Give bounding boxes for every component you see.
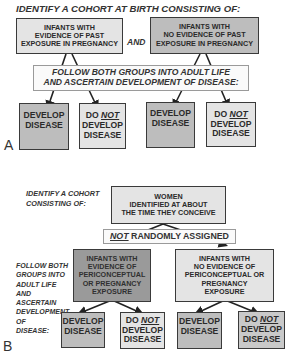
text-line: FOLLOW BOTH [16, 261, 69, 270]
panel-a-outcome-develop-1: DEVELOP DISEASE [19, 103, 69, 150]
panel-b-outcome-not-develop-1: DO NOT DEVELOP DISEASE [120, 312, 165, 349]
text-line: GROUPS INTO [16, 270, 69, 279]
text-line: NOT RANDOMLY ASSIGNED [110, 231, 229, 241]
text-line: DISEASE [25, 121, 63, 131]
not-emphasis: NOT [230, 109, 248, 119]
panel-b-outcome-not-develop-2: DO NOT DEVELOP DISEASE [238, 311, 285, 349]
text-line: DISEASE [64, 327, 102, 337]
panel-a-outcome-develop-2: DEVELOP DISEASE [146, 102, 195, 148]
text-line: DISEASE [152, 119, 190, 129]
panel-a-outcome-not-develop-2: DO NOT DEVELOP DISEASE [206, 102, 256, 147]
not-emphasis: NOT [101, 110, 119, 120]
panel-b-outcome-develop-2: DEVELOP DISEASE [177, 312, 222, 349]
panel-a-follow-instruction: FOLLOW BOTH GROUPS INTO ADULT LIFE AND A… [33, 65, 249, 91]
not-emphasis: NOT [141, 315, 159, 325]
not-emphasis: NOT [260, 314, 278, 324]
text-line: EXPOSURE IN PREGNANCY [21, 40, 118, 48]
panel-a-outcome-not-develop-1: DO NOT DEVELOP DISEASE [79, 103, 126, 149]
panel-b-unexposed-group: INFANTS WITH NO EVIDENCE OF PERICONCEPTU… [175, 249, 274, 302]
panel-a-label: A [4, 137, 13, 153]
panel-b-outcome-develop-1: DEVELOP DISEASE [61, 312, 105, 348]
text-line: DISEASE [181, 327, 219, 337]
text-line: DISEASE [124, 335, 162, 345]
text-line: DISEASE [243, 335, 281, 345]
text-line: AND ASCERTAIN DEVELOPMENT OF DISEASE: [43, 78, 238, 88]
panel-b-title: IDENTIFY A COHORT CONSISTING OF: [26, 189, 99, 208]
text-line: THE TIME THEY CONCEIVE [121, 209, 215, 217]
text-line: ADULT LIFE [16, 280, 69, 289]
not-emphasis: NOT [110, 231, 129, 241]
text-line: DISEASE [84, 131, 122, 141]
text-line: ASCERTAIN [16, 298, 69, 307]
text-line: DISEASE [212, 129, 250, 139]
text-line: IDENTIFY A COHORT [26, 189, 99, 199]
text-line: EXPOSURE [205, 288, 245, 296]
panel-b-women-cohort: WOMEN IDENTIFIED AT ABOUT THE TIME THEY … [111, 186, 226, 224]
panel-b-label: B [3, 338, 12, 354]
panel-b-exposed-group: INFANTS WITH EVIDENCE OF PERICONCEPTUAL … [73, 249, 151, 302]
panel-a-exposed-group: INFANTS WITH EVIDENCE OF PAST EXPOSURE I… [16, 18, 123, 54]
panel-a-unexposed-group: INFANTS WITH NO EVIDENCE OF PAST EXPOSUR… [150, 17, 259, 54]
panel-a-title: IDENTIFY A COHORT AT BIRTH CONSISTING OF… [16, 3, 240, 14]
text-line: EXPOSURE IN PREGNANCY [156, 40, 253, 48]
not-randomly-assigned-label: NOT RANDOMLY ASSIGNED [103, 229, 236, 244]
text-line: AND [16, 289, 69, 298]
text-line: CONSISTING OF: [26, 199, 99, 209]
text-line: EXPOSURE [92, 288, 132, 296]
and-connector: AND [127, 37, 145, 47]
